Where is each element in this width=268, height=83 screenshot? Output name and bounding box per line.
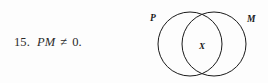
venn-circle-p: [158, 12, 222, 76]
expression-left-operand: PM: [37, 36, 55, 49]
exercise-statement: 15. PM ≠ 0.: [14, 36, 82, 49]
expression-right-operand: 0.: [72, 36, 81, 49]
venn-label-p: P: [150, 14, 156, 24]
math-expression: PM ≠ 0.: [37, 36, 82, 49]
venn-label-m: M: [247, 15, 255, 25]
venn-label-intersection-x: X: [199, 42, 205, 51]
exercise-number: 15.: [14, 36, 30, 49]
venn-diagram: P M X: [148, 4, 266, 83]
venn-circle-m: [182, 12, 246, 76]
not-equal-sign: ≠: [60, 36, 67, 49]
exercise-page: 15. PM ≠ 0. P M X: [0, 0, 268, 83]
